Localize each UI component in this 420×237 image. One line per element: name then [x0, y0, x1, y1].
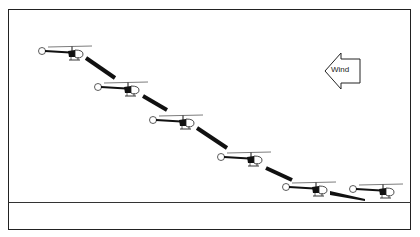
helicopter-icon	[150, 115, 204, 129]
path-segment	[330, 191, 365, 201]
helicopter-icon	[95, 82, 149, 96]
flight-path	[86, 58, 365, 201]
helicopter-icon	[218, 152, 272, 166]
path-segment	[197, 128, 227, 148]
path-segment	[86, 58, 115, 78]
helicopter-icon	[39, 46, 93, 60]
path-segment	[266, 168, 292, 180]
helicopter-icon	[350, 184, 404, 198]
path-segment	[143, 96, 167, 110]
helicopter-icon	[283, 182, 337, 196]
approach-diagram	[0, 0, 420, 237]
wind-label: Wind	[331, 65, 349, 74]
